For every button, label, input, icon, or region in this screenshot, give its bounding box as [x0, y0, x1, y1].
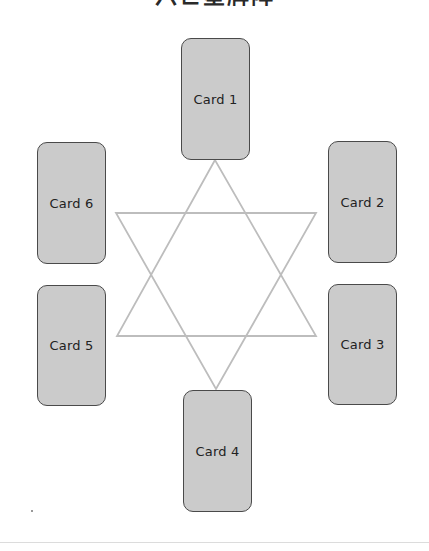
card-2: Card 2	[328, 141, 397, 263]
stray-mark	[31, 510, 33, 512]
card-3: Card 3	[328, 284, 397, 405]
card-6-label: Card 6	[49, 196, 93, 211]
card-2-label: Card 2	[340, 195, 384, 210]
card-4: Card 4	[183, 390, 252, 512]
card-5: Card 5	[37, 285, 106, 406]
star-triangle-down	[116, 213, 316, 389]
star-triangle-up	[117, 160, 316, 336]
card-6: Card 6	[37, 142, 106, 264]
card-1: Card 1	[181, 38, 250, 160]
card-1-label: Card 1	[193, 92, 237, 107]
footer-divider	[0, 542, 429, 543]
card-4-label: Card 4	[195, 444, 239, 459]
card-5-label: Card 5	[49, 338, 93, 353]
card-3-label: Card 3	[340, 337, 384, 352]
